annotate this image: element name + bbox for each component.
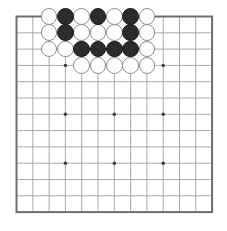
star-point-icon [113, 64, 116, 67]
star-point-icon [113, 113, 116, 116]
go-board-container[interactable] [0, 0, 227, 231]
star-point-icon [113, 162, 116, 165]
star-point-icon [64, 113, 67, 116]
star-point-icon [64, 64, 67, 67]
go-board-grid[interactable] [0, 0, 227, 231]
star-point-icon [162, 113, 165, 116]
star-point-icon [162, 162, 165, 165]
star-point-icon [64, 162, 67, 165]
star-point-icon [162, 64, 165, 67]
